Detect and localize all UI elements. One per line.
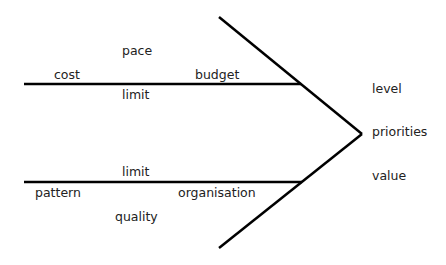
label-quality: quality xyxy=(115,210,158,224)
upper-diagonal-line xyxy=(219,17,362,134)
fishbone-diagram: pace cost budget limit level priorities … xyxy=(0,0,446,265)
label-priorities: priorities xyxy=(372,125,427,139)
label-organisation: organisation xyxy=(178,186,256,200)
label-pace: pace xyxy=(122,44,152,58)
label-level: level xyxy=(372,82,402,96)
label-limit-upper: limit xyxy=(122,88,150,102)
label-limit-lower: limit xyxy=(122,165,150,179)
label-pattern: pattern xyxy=(35,186,81,200)
label-budget: budget xyxy=(195,68,239,82)
label-cost: cost xyxy=(54,68,80,82)
label-value: value xyxy=(372,169,406,183)
